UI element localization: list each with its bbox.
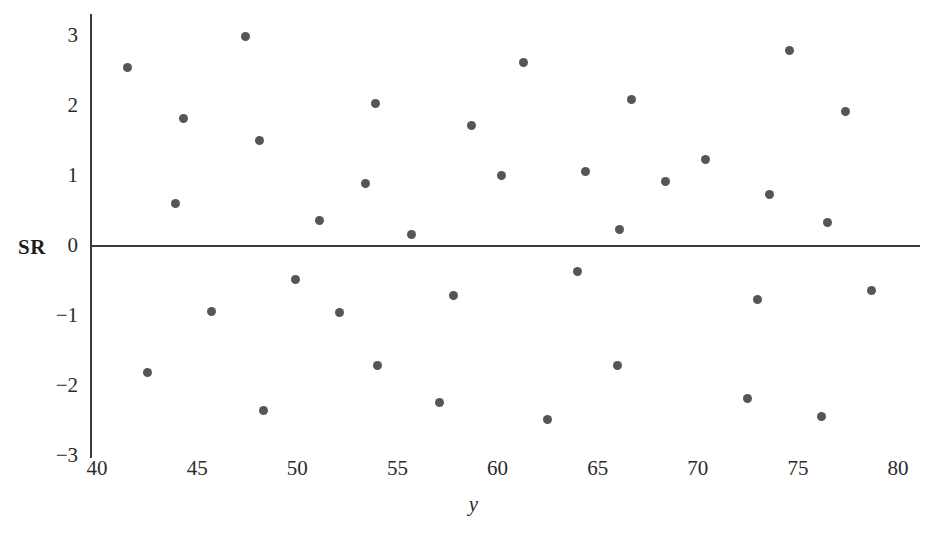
scatter-plot-figure: SR y −3−2−10123 404550556065707580 [0,0,947,537]
data-point [143,368,152,377]
data-point [407,230,416,239]
data-point [581,167,590,176]
data-point [867,286,876,295]
data-point [467,121,476,130]
data-point [259,406,268,415]
data-point [627,95,636,104]
data-points-layer [0,0,947,537]
data-point [661,177,670,186]
data-point [449,291,458,300]
data-point [823,218,832,227]
data-point [373,361,382,370]
data-point [519,58,528,67]
data-point [497,171,506,180]
data-point [255,136,264,145]
data-point [817,412,826,421]
data-point [613,361,622,370]
data-point [435,398,444,407]
data-point [765,190,774,199]
data-point [171,199,180,208]
data-point [241,32,250,41]
data-point [335,308,344,317]
data-point [371,99,380,108]
data-point [123,63,132,72]
data-point [543,415,552,424]
data-point [291,275,300,284]
data-point [841,107,850,116]
data-point [785,46,794,55]
data-point [743,394,752,403]
data-point [207,307,216,316]
data-point [315,216,324,225]
data-point [701,155,710,164]
data-point [179,114,188,123]
data-point [615,225,624,234]
data-point [573,267,582,276]
data-point [361,179,370,188]
data-point [753,295,762,304]
